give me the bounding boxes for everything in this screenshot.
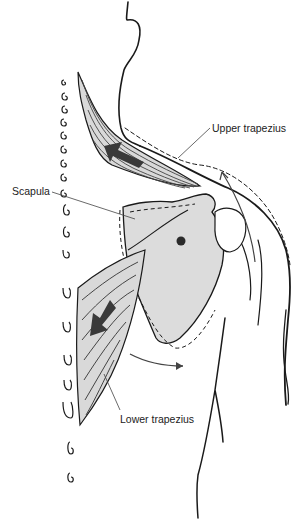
- anatomy-illustration: [0, 0, 306, 523]
- upper-trapezius-leader: [178, 128, 210, 158]
- inferior-angle-arrow-icon: [130, 354, 183, 366]
- arm-inner: [240, 240, 262, 325]
- spine-vertebrae: [61, 80, 73, 482]
- upper-trapezius-label: Upper trapezius: [212, 123, 286, 134]
- rotation-axis-dot: [177, 237, 186, 246]
- lower-trapezius-leader: [104, 374, 120, 410]
- trapezius-diagram: Upper trapezius Scapula Lower trapezius: [0, 0, 306, 523]
- scapula-label: Scapula: [12, 186, 50, 197]
- upper-trapezius-muscle: [78, 72, 200, 188]
- lower-trapezius-muscle: [77, 250, 145, 425]
- neck-outline: [119, 2, 140, 146]
- torso-contour: [197, 318, 225, 518]
- lower-trapezius-label: Lower trapezius: [120, 414, 194, 425]
